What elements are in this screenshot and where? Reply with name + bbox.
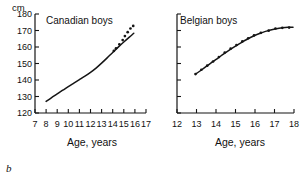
observed-points-canadian — [112, 25, 134, 53]
data-point — [274, 27, 277, 30]
y-tick-label: 140 — [17, 75, 32, 85]
panel-c-xaxis-caption: Age, years — [215, 136, 265, 148]
data-point — [267, 29, 270, 32]
y-tick-label: 150 — [17, 59, 32, 69]
panel-b-title: Canadian boys — [46, 15, 113, 26]
panel-c-title: Belgian boys — [180, 15, 237, 26]
observed-points-belgian — [194, 26, 290, 75]
data-point — [194, 73, 197, 76]
data-point — [241, 40, 244, 43]
x-tick-label: 7 — [32, 119, 37, 129]
x-tick-label: 14 — [108, 119, 118, 129]
x-tick-label: 13 — [97, 119, 107, 129]
data-point — [229, 47, 232, 50]
data-point — [129, 27, 132, 30]
data-point — [118, 43, 121, 46]
panel-canadian-boys: cm Canadian boys 12013014015016017018078… — [0, 0, 160, 176]
x-tick-label: 17 — [141, 119, 151, 129]
x-tick-label: 12 — [172, 119, 182, 129]
panel-belgian-boys: Belgian boys 12131415161718 Age, years c — [155, 0, 307, 176]
data-point — [206, 64, 209, 67]
data-point — [288, 26, 291, 29]
panel-c-plot: Belgian boys 12131415161718 Age, years — [155, 0, 307, 176]
y-tick-label: 130 — [17, 92, 32, 102]
panel-b-xaxis-caption: Age, years — [67, 136, 117, 148]
x-tick-label: 18 — [289, 119, 299, 129]
data-point — [260, 31, 263, 34]
x-tick-label: 16 — [250, 119, 260, 129]
data-point — [115, 47, 118, 50]
growth-curves-figure: cm Canadian boys 12013014015016017018078… — [0, 0, 307, 176]
y-tick-label: 120 — [17, 108, 32, 118]
data-point — [200, 68, 203, 71]
data-point — [247, 37, 250, 40]
x-tick-label: 17 — [269, 119, 279, 129]
x-tick-label: 11 — [75, 119, 84, 129]
data-point — [212, 60, 215, 63]
x-tick-label: 13 — [191, 119, 201, 129]
panel-letter-b: b — [6, 162, 12, 174]
data-point — [281, 27, 284, 30]
y-tick-label: 180 — [17, 9, 32, 19]
data-point — [253, 34, 256, 37]
y-tick-label: 170 — [17, 26, 32, 36]
panel-b-tick-labels: 1201301401501601701807891011121314151617 — [17, 9, 151, 129]
data-point — [124, 35, 127, 38]
x-tick-label: 9 — [55, 119, 60, 129]
fitted-curve-belgian — [196, 27, 294, 74]
data-point — [218, 56, 221, 59]
panel-c-tick-labels: 12131415161718 — [172, 119, 299, 129]
data-point — [112, 50, 115, 53]
panel-b-plot: cm Canadian boys 12013014015016017018078… — [0, 0, 160, 176]
data-point — [223, 51, 226, 54]
x-tick-label: 8 — [44, 119, 49, 129]
fitted-curve-canadian — [46, 33, 134, 101]
y-tick-label: 160 — [17, 42, 32, 52]
data-point — [121, 39, 124, 42]
data-point — [132, 25, 135, 28]
data-point — [126, 31, 129, 34]
x-tick-label: 16 — [130, 119, 140, 129]
data-point — [235, 44, 238, 47]
x-tick-label: 14 — [211, 119, 221, 129]
x-tick-label: 15 — [230, 119, 240, 129]
x-tick-label: 15 — [119, 119, 129, 129]
x-tick-label: 12 — [85, 119, 95, 129]
x-tick-label: 10 — [63, 119, 73, 129]
